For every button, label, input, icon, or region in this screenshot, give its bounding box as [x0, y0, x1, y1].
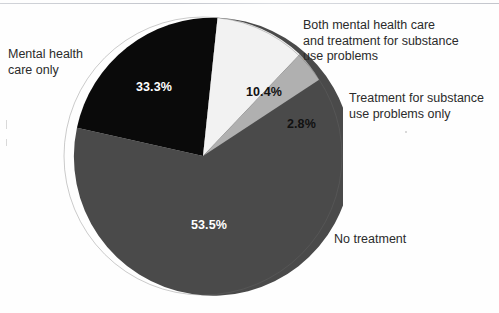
- slice-value-mental-health-care-only: 33.3%: [136, 80, 172, 94]
- pie-chart-figure: 33.3% 10.4% 2.8% 53.5% Mental health car…: [0, 0, 499, 313]
- callout-mental-health-care-only: Mental health care only: [8, 47, 83, 78]
- pie-graphic: [63, 16, 343, 296]
- callout-both-care-and-treatment: Both mental health care and treatment fo…: [303, 18, 459, 65]
- pie-svg: [63, 16, 343, 296]
- slice-value-no-treatment: 53.5%: [191, 218, 227, 232]
- slice-value-both-care-and-treatment: 10.4%: [246, 85, 282, 99]
- scan-artifact-speck: [405, 131, 407, 133]
- slice-value-treatment-substance-only: 2.8%: [287, 117, 316, 131]
- callout-treatment-substance-only: Treatment for substance use problems onl…: [349, 91, 484, 122]
- top-divider-rule: [0, 3, 499, 4]
- callout-no-treatment: No treatment: [334, 232, 406, 248]
- scan-artifact-speck: [6, 139, 7, 146]
- scan-artifact-speck: [6, 120, 7, 129]
